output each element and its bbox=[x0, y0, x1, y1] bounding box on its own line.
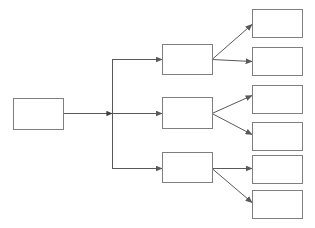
node-box-branch-3[interactable] bbox=[163, 153, 213, 183]
connector-branch-2-to-leaf-4 bbox=[212, 114, 252, 135]
node-box-leaf-2[interactable] bbox=[253, 48, 303, 76]
connector-branch-2-to-leaf-3 bbox=[212, 96, 252, 114]
node-box-leaf-4[interactable] bbox=[253, 123, 303, 151]
node-box-branch-2[interactable] bbox=[163, 98, 213, 129]
connector-branch-3-to-leaf-6 bbox=[212, 169, 252, 203]
node-box-leaf-1[interactable] bbox=[253, 10, 303, 38]
connector-branch-1-to-leaf-2 bbox=[212, 60, 252, 62]
node-box-branch-1[interactable] bbox=[163, 45, 213, 75]
tree-diagram-canvas bbox=[0, 0, 315, 228]
node-box-leaf-6[interactable] bbox=[253, 191, 303, 219]
node-box-leaf-3[interactable] bbox=[253, 86, 303, 114]
connector-branch-1-to-leaf-1 bbox=[212, 25, 252, 60]
connector-layer bbox=[63, 25, 252, 203]
node-box-leaf-5[interactable] bbox=[253, 156, 303, 184]
tree-diagram-svg bbox=[0, 0, 315, 228]
node-box-root[interactable] bbox=[14, 99, 64, 130]
